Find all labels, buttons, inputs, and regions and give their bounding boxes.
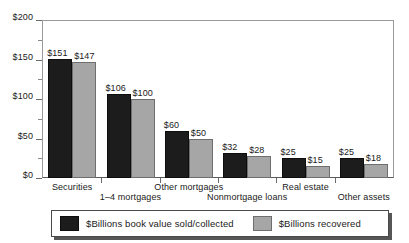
bar-recovered: $15 xyxy=(306,166,330,178)
x-axis-separator-tick xyxy=(101,178,102,183)
bar-book-value: $106 xyxy=(107,94,131,178)
y-axis-tick-label: $50 xyxy=(18,132,33,141)
x-axis-separator-tick xyxy=(218,178,219,183)
bar-recovered: $147 xyxy=(72,62,96,178)
bar-group: $25$15 xyxy=(282,20,330,178)
bar-value-label: $28 xyxy=(249,146,264,155)
bar-value-label: $25 xyxy=(281,148,296,157)
x-axis-category-label: Other assets xyxy=(323,192,405,202)
bar-chart: $0$50$100$150$200 $151$147$106$100$60$50… xyxy=(0,0,409,243)
x-axis-category-label: Other mortgages xyxy=(148,182,230,192)
bar-group: $106$100 xyxy=(107,20,155,178)
y-axis-tick-mark xyxy=(36,178,42,179)
y-axis-tick-label: $0 xyxy=(23,171,33,180)
bar-recovered: $28 xyxy=(247,156,271,178)
bar-book-value: $60 xyxy=(165,131,189,178)
bar-book-value: $25 xyxy=(282,158,306,178)
bar-group: $25$18 xyxy=(340,20,388,178)
y-axis-tick-label: $200 xyxy=(13,13,33,22)
bar-group: $60$50 xyxy=(165,20,213,178)
bar-book-value: $151 xyxy=(48,59,72,178)
bar-value-label: $15 xyxy=(308,156,323,165)
bar-recovered: $100 xyxy=(131,99,155,178)
bar-group: $32$28 xyxy=(223,20,271,178)
chart-legend: $Billions book value sold/collected$Bill… xyxy=(51,210,389,237)
legend-label: $Billions book value sold/collected xyxy=(86,219,234,229)
x-axis-category-label: Securities xyxy=(31,182,113,192)
y-axis-tick-label: $150 xyxy=(13,53,33,62)
bar-value-label: $147 xyxy=(74,52,94,61)
legend-item: $Billions book value sold/collected xyxy=(60,216,234,231)
legend-item: $Billions recovered xyxy=(253,216,361,231)
bar-value-label: $25 xyxy=(339,148,354,157)
black-swatch-icon xyxy=(60,216,79,231)
x-axis-category-label: Real estate xyxy=(264,182,346,192)
legend-label: $Billions recovered xyxy=(279,219,361,229)
bar-book-value: $25 xyxy=(340,158,364,178)
y-axis: $0$50$100$150$200 xyxy=(0,0,42,200)
bar-value-label: $50 xyxy=(191,129,206,138)
x-axis-category-label: 1–4 mortgages xyxy=(89,192,171,202)
bar-value-label: $151 xyxy=(47,49,67,58)
bar-recovered: $50 xyxy=(189,139,213,179)
bar-book-value: $32 xyxy=(223,153,247,178)
bar-group: $151$147 xyxy=(48,20,96,178)
gray-swatch-icon xyxy=(253,216,272,231)
y-axis-tick-label: $100 xyxy=(13,92,33,101)
bar-value-label: $100 xyxy=(133,89,153,98)
x-axis-category-label: Nonmortgage loans xyxy=(206,192,288,202)
bar-value-label: $32 xyxy=(222,143,237,152)
bar-value-label: $106 xyxy=(106,84,126,93)
x-axis-separator-tick xyxy=(335,178,336,183)
bar-value-label: $18 xyxy=(366,154,381,163)
bar-recovered: $18 xyxy=(364,164,388,178)
bars-layer: $151$147$106$100$60$50$32$28$25$15$25$18 xyxy=(43,20,393,178)
bar-value-label: $60 xyxy=(164,121,179,130)
